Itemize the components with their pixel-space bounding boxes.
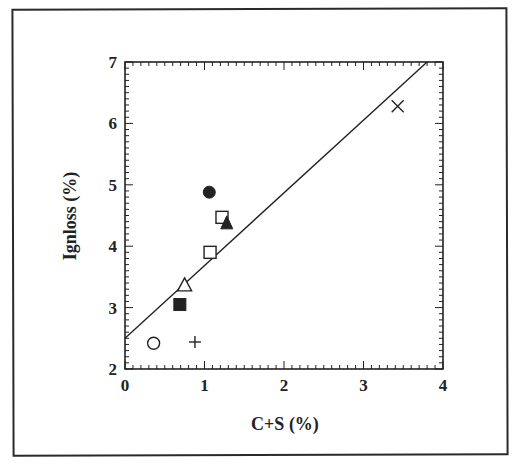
fit-line xyxy=(125,62,427,338)
y-tick-label: 2 xyxy=(109,360,118,379)
filled-square-marker xyxy=(174,299,186,311)
x-tick-label: 3 xyxy=(359,376,368,395)
y-tick-label: 7 xyxy=(109,53,118,72)
y-tick-label: 5 xyxy=(109,176,118,195)
y-axis-title: Ignloss (%) xyxy=(60,172,81,261)
open-square-marker xyxy=(204,246,216,258)
data-points xyxy=(148,100,404,349)
y-tick-label: 4 xyxy=(109,237,118,256)
open-circle-marker xyxy=(148,337,160,349)
y-tick-label: 6 xyxy=(109,114,118,133)
x-tick-label: 4 xyxy=(439,376,448,395)
y-tick-label: 3 xyxy=(109,299,118,318)
regression-line xyxy=(125,62,427,338)
x-axis-title: C+S (%) xyxy=(251,414,319,435)
marker-cross xyxy=(392,100,404,112)
x-tick-label: 0 xyxy=(121,376,130,395)
scatter-chart: 01234234567 C+S (%) Ignloss (%) xyxy=(0,0,525,472)
filled-circle-marker xyxy=(203,186,215,198)
marker-filled-circle xyxy=(203,186,215,198)
marker-open-square-a xyxy=(204,246,216,258)
marker-open-circle xyxy=(148,337,160,349)
marker-plus xyxy=(189,336,201,348)
x-tick-label: 1 xyxy=(200,376,209,395)
marker-filled-square xyxy=(174,299,186,311)
x-tick-label: 2 xyxy=(280,376,289,395)
